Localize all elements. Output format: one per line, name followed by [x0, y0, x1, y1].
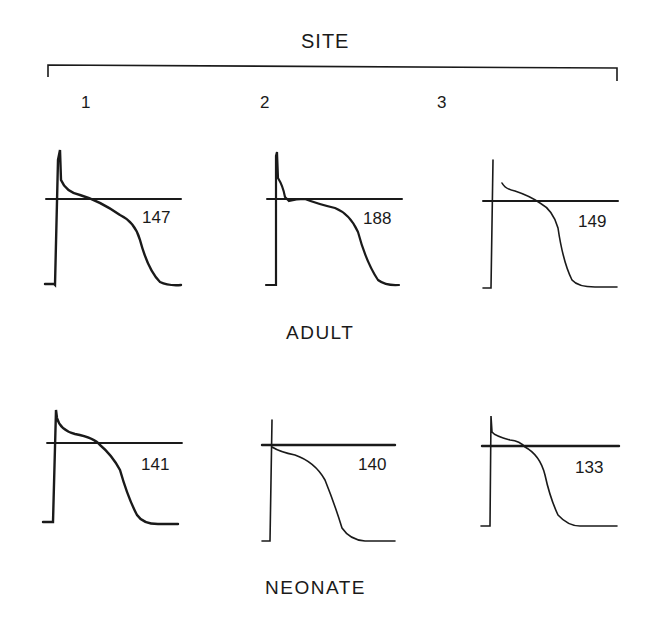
site-3-label: 3	[437, 93, 446, 113]
site-1-label: 1	[81, 93, 90, 113]
neonate-site-2-trace	[262, 420, 395, 541]
neonate-site-1-duration: 141	[141, 455, 169, 475]
neonate-group-label: NEONATE	[265, 577, 366, 599]
diagram-canvas	[0, 0, 651, 617]
site-bracket	[48, 65, 617, 81]
adult-site-2-duration: 188	[363, 209, 391, 229]
neonate-site-3-duration: 133	[575, 458, 603, 478]
adult-site-1-duration: 147	[142, 208, 170, 228]
adult-group-label: ADULT	[286, 322, 354, 344]
site-2-label: 2	[260, 93, 269, 113]
neonate-site-2-duration: 140	[358, 455, 386, 475]
adult-site-3-duration: 149	[578, 212, 606, 232]
